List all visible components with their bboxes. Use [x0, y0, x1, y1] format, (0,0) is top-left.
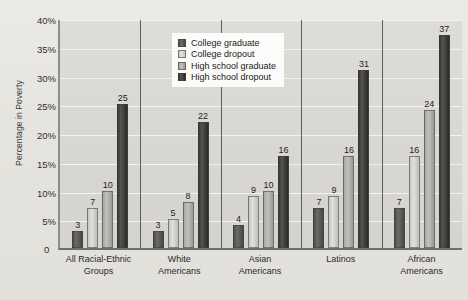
- bar-container: 9: [328, 196, 339, 248]
- bar-container: 7: [394, 208, 405, 248]
- bar[interactable]: [87, 208, 98, 248]
- x-axis-label-5: AfricanAmericans: [381, 254, 462, 277]
- y-tick-label: 30%: [37, 72, 56, 83]
- y-tick-label: 15%: [37, 158, 56, 169]
- bar-value-label: 7: [90, 198, 95, 207]
- bar-container: 9: [248, 196, 259, 248]
- bar[interactable]: [168, 219, 179, 248]
- bar-value-label: 4: [236, 215, 241, 224]
- bar-container: 22: [198, 122, 209, 249]
- poverty-by-education-bar-chart: Percentage in Poverty 40% 35% 30% 25% 20…: [0, 0, 468, 300]
- legend: College graduateCollege dropoutHigh scho…: [172, 33, 284, 87]
- legend-swatch-icon: [178, 50, 186, 58]
- bar-container: 4: [233, 225, 244, 248]
- bar-value-label: 7: [397, 198, 402, 207]
- y-axis-tick-labels: 40% 35% 30% 25% 20% 15% 10% 5%: [20, 0, 56, 300]
- bar-value-label: 37: [439, 25, 449, 34]
- x-axis-label-2: WhiteAmericans: [139, 254, 220, 277]
- legend-item[interactable]: High school dropout: [178, 72, 276, 84]
- x-axis-label-3: AsianAmericans: [220, 254, 301, 277]
- bar-value-label: 3: [75, 221, 80, 230]
- y-tick-label: 20%: [37, 130, 56, 141]
- bar-container: 3: [153, 231, 164, 248]
- bar[interactable]: [117, 104, 128, 248]
- legend-item[interactable]: High school graduate: [178, 60, 276, 72]
- bar-container: 16: [409, 156, 420, 248]
- bar-container: 16: [343, 156, 354, 248]
- x-axis-label-1: All Racial-EthnicGroups: [58, 254, 139, 277]
- x-axis-category-labels: All Racial-EthnicGroupsWhiteAmericansAsi…: [58, 254, 462, 277]
- bar[interactable]: [102, 191, 113, 249]
- bar[interactable]: [394, 208, 405, 248]
- bar-container: 3: [72, 231, 83, 248]
- bar-group: 7162437: [382, 20, 462, 248]
- bar-value-label: 22: [198, 112, 208, 121]
- bar-group: 791631: [301, 20, 381, 248]
- bar-container: 7: [87, 208, 98, 248]
- bar[interactable]: [153, 231, 164, 248]
- bar-container: 31: [358, 70, 369, 248]
- bar-container: 8: [183, 202, 194, 248]
- legend-label: College dropout: [191, 49, 255, 59]
- bar[interactable]: [343, 156, 354, 248]
- legend-item[interactable]: College dropout: [178, 49, 276, 61]
- bar-container: 24: [424, 110, 435, 248]
- bar[interactable]: [424, 110, 435, 248]
- bar-value-label: 16: [409, 146, 419, 155]
- bar-value-label: 10: [264, 181, 274, 190]
- y-tick-label: 25%: [37, 101, 56, 112]
- bar-container: 10: [263, 191, 274, 249]
- bar[interactable]: [233, 225, 244, 248]
- bar-value-label: 25: [118, 94, 128, 103]
- bar-group: 371025: [60, 20, 140, 248]
- bar[interactable]: [198, 122, 209, 249]
- bar-container: 25: [117, 104, 128, 248]
- y-tick-label: 5%: [42, 216, 56, 227]
- bar-value-label: 24: [424, 100, 434, 109]
- bar-container: 7: [313, 208, 324, 248]
- bar-value-label: 16: [344, 146, 354, 155]
- bar-value-label: 10: [103, 181, 113, 190]
- y-axis-zero-label: 0: [44, 244, 49, 255]
- bar-value-label: 8: [186, 192, 191, 201]
- bar[interactable]: [278, 156, 289, 248]
- legend-swatch-icon: [178, 73, 186, 81]
- x-axis-label-4: Latinos: [300, 254, 381, 277]
- bar-value-label: 9: [331, 186, 336, 195]
- bar[interactable]: [263, 191, 274, 249]
- bar[interactable]: [439, 35, 450, 248]
- y-tick-label: 40%: [37, 15, 56, 26]
- legend-item[interactable]: College graduate: [178, 37, 276, 49]
- bar-value-label: 9: [251, 186, 256, 195]
- legend-label: College graduate: [191, 38, 260, 48]
- legend-label: High school dropout: [191, 72, 271, 82]
- bar-value-label: 5: [171, 209, 176, 218]
- bar[interactable]: [358, 70, 369, 248]
- bar[interactable]: [328, 196, 339, 248]
- legend-swatch-icon: [178, 39, 186, 47]
- bar-value-label: 16: [279, 146, 289, 155]
- bar-value-label: 3: [156, 221, 161, 230]
- bar-value-label: 7: [316, 198, 321, 207]
- legend-label: High school graduate: [191, 61, 276, 71]
- bar-value-label: 31: [359, 60, 369, 69]
- bar-container: 16: [278, 156, 289, 248]
- y-tick-label: 35%: [37, 43, 56, 54]
- y-tick-label: 10%: [37, 187, 56, 198]
- bar[interactable]: [72, 231, 83, 248]
- bar[interactable]: [409, 156, 420, 248]
- bar-container: 37: [439, 35, 450, 248]
- bar[interactable]: [183, 202, 194, 248]
- bar-container: 10: [102, 191, 113, 249]
- bar[interactable]: [248, 196, 259, 248]
- legend-swatch-icon: [178, 62, 186, 70]
- bar[interactable]: [313, 208, 324, 248]
- bar-container: 5: [168, 219, 179, 248]
